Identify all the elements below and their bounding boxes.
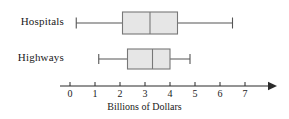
axis-title: Billions of Dollars — [0, 101, 289, 112]
boxplot-hospitals — [76, 12, 232, 34]
tick-label-6: 6 — [212, 88, 228, 99]
box-plot-figure: Hospitals Highways 0 1 2 3 4 5 6 7 Billi… — [0, 0, 289, 119]
axis-arrow-icon — [268, 82, 277, 90]
tick-label-1: 1 — [87, 88, 103, 99]
tick-label-7: 7 — [237, 88, 253, 99]
tick-label-0: 0 — [62, 88, 78, 99]
tick-label-2: 2 — [112, 88, 128, 99]
tick-label-3: 3 — [137, 88, 153, 99]
tick-label-4: 4 — [162, 88, 178, 99]
box-highways — [128, 49, 171, 69]
tick-label-5: 5 — [187, 88, 203, 99]
boxplot-highways — [99, 49, 190, 69]
